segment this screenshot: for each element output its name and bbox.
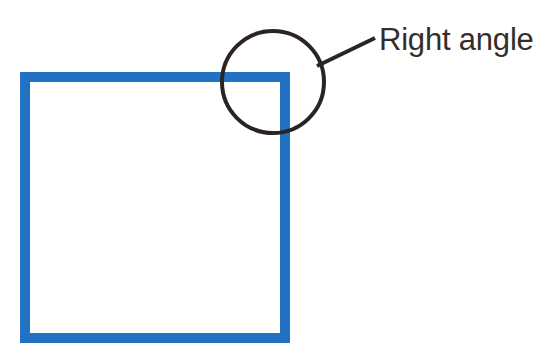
- diagram-canvas: Right angle: [0, 0, 558, 355]
- right-angle-label: Right angle: [379, 22, 534, 57]
- geometry-diagram-figure: Right angle: [0, 0, 558, 355]
